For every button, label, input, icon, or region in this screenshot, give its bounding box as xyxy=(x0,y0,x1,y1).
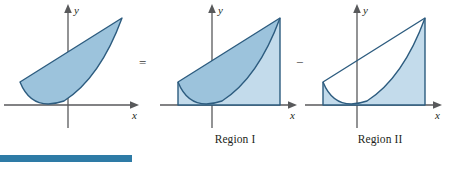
panel-combined-region: y x xyxy=(2,0,152,132)
panel-region-1: y x xyxy=(160,0,310,132)
accent-bar xyxy=(0,155,132,162)
region-2-graph: y x xyxy=(305,0,455,132)
y-axis-region-2 xyxy=(353,4,361,128)
figure-root: y x y x xyxy=(0,0,455,172)
y-axis-label-combined: y xyxy=(73,4,79,16)
caption-region-1: Region I xyxy=(160,133,310,145)
panel-region-2: y x xyxy=(305,0,455,132)
caption-region-2: Region II xyxy=(305,133,455,145)
x-axis-combined xyxy=(4,101,139,109)
y-axis-label-region-1: y xyxy=(217,4,223,16)
accent-bar-wrap xyxy=(0,155,132,162)
y-axis-label-region-2: y xyxy=(362,4,368,16)
region-1-graph: y x xyxy=(160,0,310,132)
lens-region-shape xyxy=(20,18,122,104)
x-axis-label-region-1: x xyxy=(289,109,295,121)
x-axis-label-region-2: x xyxy=(434,109,440,121)
region-2-under-parabola-fill xyxy=(323,18,425,105)
x-axis-label-combined: x xyxy=(131,109,137,121)
combined-region-graph: y x xyxy=(2,0,152,132)
